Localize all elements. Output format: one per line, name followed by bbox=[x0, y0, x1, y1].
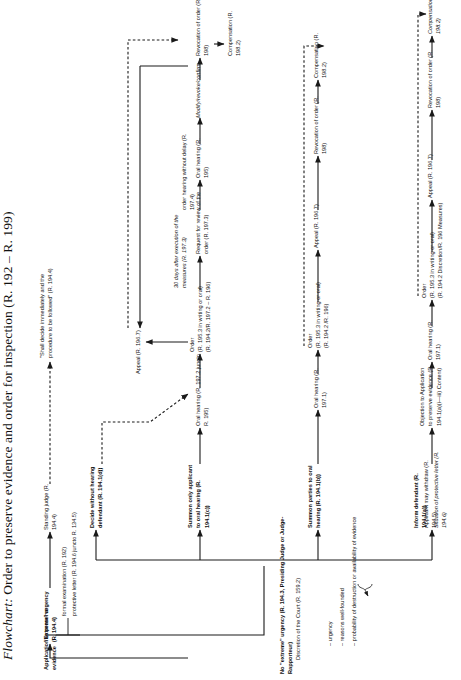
node-decide-without-hearing-defendant: Decide without hearing defendant (R. 194… bbox=[88, 464, 105, 528]
node-compensation-row3: Compensation (R. 198.2) bbox=[312, 22, 329, 78]
node-revocation-row4: Revocation of order (R. 198) bbox=[426, 48, 443, 108]
node-oral-hearing-row2: Oral hearing (R. 197.2 juncto R. 195) bbox=[194, 352, 211, 426]
node-oral-hearing-row4: Oral hearing (R. 197.1) bbox=[426, 304, 443, 360]
node-compensation-row4: Compensation (R. 198.2) bbox=[426, 0, 443, 34]
page-title-rest: Order to preserve evidence and order for… bbox=[0, 211, 15, 598]
node-discretion-of-the-court: Discretion of the Court (R. 159.2) bbox=[294, 540, 302, 660]
node-oral-hearing-review: Oral hearing (R. 195) bbox=[194, 126, 211, 178]
node-no-extreme-urgency: No "extreme" urgency (R. 194.3, Presidin… bbox=[278, 504, 295, 674]
node-modify-revoke-confirm: Modify/revoke/confirm bbox=[194, 56, 202, 118]
node-order-row4-sub: (R. 195.3 in writing or oral) (R. 194.2 … bbox=[428, 198, 445, 298]
node-appeal-row4: Appeal (R. 196.7) bbox=[426, 150, 434, 198]
node-appeal-row3: Appeal (R. 196.7) bbox=[312, 200, 320, 248]
node-criterion-reasons-well-founded: – reasons well-founded bbox=[338, 516, 346, 646]
node-criterion-probability-destruction: – probability of destruction or availabi… bbox=[350, 456, 358, 646]
node-situation-of-protective-letter: Situation of protective letter (R. 194.6… bbox=[432, 444, 449, 528]
node-thirty-days-after-execution: 30 days after execution of the measures … bbox=[172, 212, 189, 288]
node-standing-judge: Standing judge (R. 194.4) bbox=[42, 470, 59, 530]
node-revocation-row2: Revocation of order (R. 198) bbox=[194, 0, 211, 56]
node-formal-examination: formal examination (R. 192) bbox=[60, 466, 68, 616]
page-title: Flowchart: Order to preserve evidence an… bbox=[0, 0, 16, 660]
node-objection-to-application: Objection to Application to preserve evi… bbox=[418, 364, 443, 426]
flowchart-rotation-wrapper: Application to preserve evidence formal … bbox=[28, 0, 461, 680]
node-appeal-top: Appeal (R. 196.7) bbox=[134, 326, 142, 374]
page-title-italic: Flowchart: bbox=[0, 598, 15, 660]
node-criterion-urgency: – urgency bbox=[326, 516, 334, 646]
node-order-row2-sub: (R. 195.3 in writing or oral) (R. 194.2/… bbox=[196, 256, 213, 352]
flowchart-canvas: Application to preserve evidence formal … bbox=[28, 0, 461, 680]
node-summon-parties-to-oral-hearing: Summon parties to oral hearing (R. 194.1… bbox=[306, 462, 323, 528]
flowchart-connectors bbox=[28, 0, 461, 680]
node-compensation-row2: Compensation (R. 198.2) bbox=[226, 0, 243, 56]
node-extreme-urgency: "Extreme" urgency (R. 194.4) bbox=[42, 584, 59, 642]
node-oral-hearing-row3: Oral hearing (R. 197.1) bbox=[312, 352, 329, 408]
title-bar: Flowchart: Order to preserve evidence an… bbox=[0, 0, 28, 680]
node-summon-only-applicant: Summon only applicant to oral hearing (R… bbox=[186, 464, 211, 528]
node-revocation-row3: Revocation of order (R. 198) bbox=[312, 94, 329, 154]
node-protective-letter: protective letter (R. 194.6 juncto R. 13… bbox=[70, 446, 78, 616]
node-order-row3-sub: (R. 195.3 in writing or oral) (R. 194.2 … bbox=[314, 258, 331, 348]
node-shall-decide-immediately: "Shall decide immediately and the proced… bbox=[38, 248, 55, 358]
